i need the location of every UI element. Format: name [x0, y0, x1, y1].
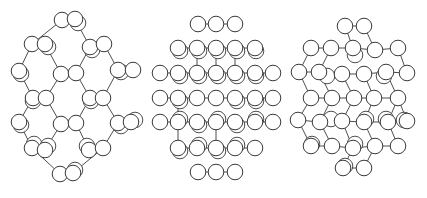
atom [65, 165, 81, 181]
atom [265, 90, 281, 106]
atom [345, 40, 361, 56]
atom [356, 114, 372, 130]
atom [265, 114, 281, 130]
atom [390, 90, 406, 106]
atom [227, 164, 243, 180]
atom [53, 66, 69, 82]
atom [68, 65, 84, 81]
atom [247, 140, 263, 156]
atom [82, 39, 98, 55]
atom [290, 112, 306, 128]
atom [337, 18, 353, 34]
atom [68, 115, 84, 131]
atom [311, 64, 327, 80]
atom [227, 90, 243, 106]
atomic-structures-diagram [0, 0, 427, 198]
atom [380, 114, 396, 130]
atom [208, 114, 224, 130]
atom [378, 64, 394, 80]
atom [208, 40, 224, 56]
atom [303, 90, 319, 106]
atom [11, 114, 27, 130]
atom [190, 16, 206, 32]
atom [367, 138, 383, 154]
atom [152, 90, 168, 106]
atom [189, 140, 205, 156]
atom [247, 90, 263, 106]
atom [227, 114, 243, 130]
atom [208, 90, 224, 106]
atom [38, 90, 54, 106]
atom [303, 138, 319, 154]
atom [346, 90, 362, 106]
atom [190, 164, 206, 180]
atom [67, 11, 83, 27]
atom [247, 114, 263, 130]
atom [323, 40, 339, 56]
atom [390, 138, 406, 154]
atom [356, 18, 372, 34]
atom [227, 65, 243, 81]
atom [303, 40, 319, 56]
atom [247, 65, 263, 81]
atom [170, 90, 186, 106]
atom [152, 65, 168, 81]
atom [227, 16, 243, 32]
atom [53, 116, 69, 132]
atom [189, 40, 205, 56]
atom [170, 65, 186, 81]
atom [227, 40, 243, 56]
atom [399, 113, 415, 129]
atom [345, 140, 361, 156]
atom [334, 113, 350, 129]
atom [399, 65, 415, 81]
atom [366, 90, 382, 106]
atom [208, 164, 224, 180]
atom [356, 66, 372, 82]
atom [96, 36, 112, 52]
atom [125, 62, 141, 78]
atom [334, 66, 350, 82]
atom [312, 114, 328, 130]
atom [247, 40, 263, 56]
atom [189, 114, 205, 130]
atom [367, 42, 383, 58]
atom [356, 160, 372, 176]
atom [170, 40, 186, 56]
atom [208, 65, 224, 81]
atom [37, 36, 53, 52]
atom [291, 64, 307, 80]
atom [37, 142, 53, 158]
structure-middle [152, 16, 281, 180]
atom [324, 138, 340, 154]
structure-left [11, 11, 143, 182]
figure-canvas [0, 0, 427, 198]
structure-right [290, 18, 415, 176]
atom [11, 63, 27, 79]
atom [390, 40, 406, 56]
atom [152, 114, 168, 130]
atom [95, 90, 111, 106]
atom [95, 140, 111, 156]
atom [170, 114, 186, 130]
atom [189, 90, 205, 106]
atom [208, 140, 224, 156]
atom [265, 65, 281, 81]
atom [324, 90, 340, 106]
atom [110, 62, 126, 78]
atom [123, 114, 139, 130]
atom [170, 140, 186, 156]
atom [335, 160, 351, 176]
atom [208, 16, 224, 32]
atom [81, 142, 97, 158]
atom [227, 140, 243, 156]
atom [189, 65, 205, 81]
